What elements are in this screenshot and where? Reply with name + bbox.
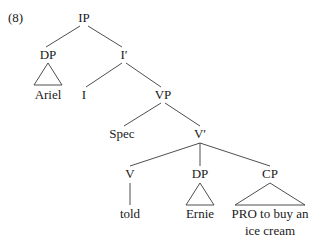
node-v-bar: V′	[194, 127, 206, 141]
example-number: (8)	[8, 11, 23, 25]
node-spec: Spec	[109, 127, 134, 141]
node-dp-subject: DP	[40, 48, 57, 62]
leaf-ernie: Ernie	[186, 207, 214, 221]
node-cp: CP	[262, 167, 278, 181]
node-i: I	[82, 88, 86, 102]
node-vp: VP	[155, 88, 172, 102]
leaf-ariel: Ariel	[35, 88, 62, 102]
leaf-cp-line1: PRO to buy an	[232, 207, 309, 221]
node-i-bar: I′	[120, 48, 127, 62]
leaf-told: told	[120, 207, 140, 221]
leaf-cp-line2: ice cream	[245, 224, 295, 238]
node-v: V	[125, 167, 134, 181]
node-dp-object: DP	[192, 167, 209, 181]
node-ip: IP	[78, 11, 90, 25]
